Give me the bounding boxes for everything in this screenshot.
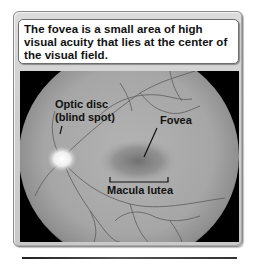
retina-photo: Optic disc (blind spot) Fovea Macula lut…	[20, 71, 239, 242]
fundus-image	[20, 71, 239, 242]
macula-lutea-label: Macula lutea	[107, 184, 173, 196]
optic-disc	[47, 146, 77, 172]
caption-text: The fovea is a small area of high visual…	[24, 23, 236, 62]
fovea-shadow	[98, 139, 178, 183]
fovea-label: Fovea	[160, 114, 192, 126]
optic-disc-label: Optic disc	[55, 98, 108, 110]
caption-box: The fovea is a small area of high visual…	[18, 19, 239, 64]
blind-spot-label: (blind spot)	[55, 111, 115, 123]
bottom-divider	[22, 257, 237, 259]
